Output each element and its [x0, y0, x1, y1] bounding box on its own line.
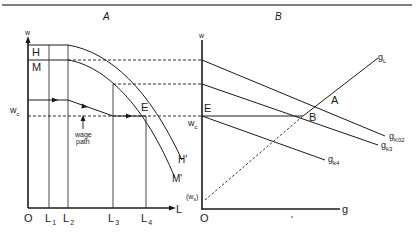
- left-x-arrow-icon: [169, 206, 176, 211]
- tick-l2: L2: [63, 212, 74, 226]
- diagram-canvas: A w L O L1 L2 L3 L4 H M H' M': [0, 0, 416, 235]
- left-wc-label: wc: [9, 105, 20, 117]
- gk4-label: gk4: [328, 154, 340, 166]
- gk3-label: gk3: [381, 140, 393, 152]
- right-x-label: g: [342, 203, 348, 215]
- left-y-label: w: [24, 29, 31, 36]
- tick-l1: L1: [45, 212, 56, 226]
- tick-l4: L4: [141, 212, 152, 226]
- tick-l3: L3: [108, 212, 119, 226]
- point-b-label: B: [309, 111, 316, 123]
- gk4-line: [202, 116, 325, 160]
- m-label: M: [32, 61, 41, 73]
- panel-b: B w g O (ws) gK02 gk3 gk4 E wc gL A B: [186, 11, 405, 224]
- h-prime-label: H': [178, 154, 187, 165]
- point-a-label: A: [331, 94, 339, 106]
- panel-a-title: A: [102, 11, 110, 22]
- wage-path-arrow-icon: [82, 104, 89, 109]
- panel-b-title: B: [275, 11, 282, 22]
- gl-label: gL: [378, 52, 387, 64]
- wage-path-arrow-icon: [52, 98, 58, 103]
- wage-path-label-2: path: [76, 138, 90, 146]
- right-wc-label: wc: [187, 118, 198, 130]
- gk02-label: gK02: [389, 131, 405, 143]
- m-prime-label: M': [172, 173, 182, 184]
- right-origin-label: O: [200, 212, 209, 224]
- left-e-label: E: [141, 101, 148, 113]
- stray-dot: [291, 216, 293, 218]
- left-origin-label: O: [24, 212, 33, 224]
- gk3-line: [202, 84, 378, 145]
- panel-a: A w L O L1 L2 L3 L4 H M H' M': [9, 11, 202, 226]
- left-x-label: L: [176, 203, 182, 215]
- gk02-line: [202, 60, 385, 136]
- h-label: H: [32, 46, 40, 58]
- gl-dashed-segment: [205, 116, 303, 200]
- right-e-label: E: [204, 102, 211, 114]
- left-y-arrow-icon: [26, 36, 31, 43]
- gl-line: [303, 58, 378, 116]
- ws-label: (ws): [186, 193, 198, 202]
- right-y-label: w: [198, 32, 205, 39]
- wage-path-line: [28, 100, 146, 116]
